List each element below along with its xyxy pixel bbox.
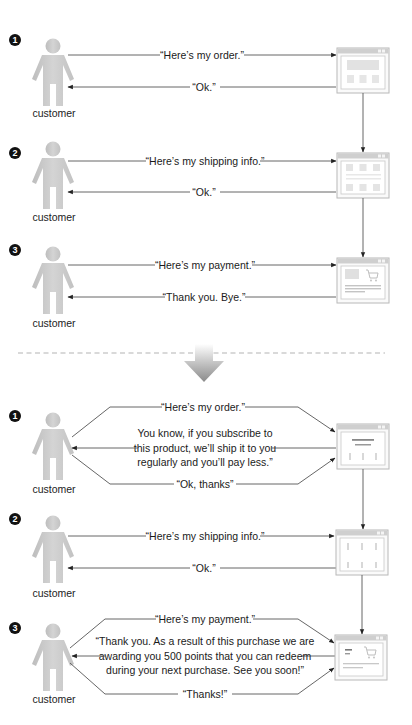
response-line-2: this product, we’ll ship it to you: [134, 442, 277, 454]
customer-figure-icon: [32, 413, 74, 481]
request-label: “Here’s my payment.”: [155, 613, 256, 625]
customer-label: customer: [32, 587, 76, 599]
order-page-window-icon: [337, 48, 389, 93]
after-step-3: 3 customer “Here’s my payment.” “Thank y…: [9, 613, 387, 706]
response-label: “Thank you. Bye.”: [163, 291, 246, 303]
response-line-1: “Thank you. As a result of this purchase…: [96, 635, 315, 647]
step-number: 3: [12, 623, 17, 633]
before-step-3: 3 customer “Here’s my payment.” “Thank y…: [9, 244, 389, 329]
order-page-window-icon: [337, 424, 389, 469]
customer-interaction-diagram: 1 customer “Here’s my order.” “Ok.” 2 cu…: [0, 0, 412, 725]
step-number: 1: [12, 411, 17, 421]
before-step-1: 1 customer “Here’s my order.” “Ok.”: [9, 34, 389, 119]
customer-label: customer: [32, 107, 76, 119]
customer-figure-icon: [32, 39, 74, 107]
customer-figure-icon: [32, 142, 74, 210]
response-line-1: You know, if you subscribe to: [137, 427, 272, 439]
request-label: “Here’s my payment.”: [155, 259, 256, 271]
response-line-2: awarding you 500 points that you can red…: [99, 650, 312, 662]
before-step-2: 2 customer “Here’s my shipping info.” “O…: [9, 142, 389, 224]
step-number: 3: [12, 245, 17, 255]
request-label: “Here’s my order.”: [160, 49, 244, 61]
request-label: “Here’s my shipping info.”: [146, 530, 265, 542]
after-step-2: 2 customer “Here’s my shipping info.” “O…: [9, 513, 388, 599]
response-label: “Ok.”: [192, 81, 216, 93]
customer-figure-icon: [32, 516, 74, 584]
request-label: “Here’s my shipping info.”: [146, 155, 265, 167]
request-label: “Here’s my order.”: [161, 401, 245, 413]
customer-figure-icon: [32, 247, 74, 315]
reply-label: “Thanks!”: [183, 688, 228, 700]
customer-label: customer: [32, 211, 76, 223]
customer-figure-icon: [32, 624, 74, 692]
step-number: 1: [12, 35, 17, 45]
step-number: 2: [12, 148, 17, 158]
customer-label: customer: [32, 317, 76, 329]
response-line-3: during your next purchase. See you soon!…: [106, 664, 304, 676]
response-label: “Ok.”: [192, 186, 216, 198]
shipping-page-window-icon: [336, 530, 388, 575]
payment-page-window-icon: [335, 635, 387, 680]
after-step-1: 1 customer “Here’s my order.” You know, …: [9, 401, 389, 496]
customer-label: customer: [32, 483, 76, 495]
customer-label: customer: [32, 693, 76, 705]
shipping-page-window-icon: [337, 153, 389, 198]
reply-label: “Ok, thanks”: [176, 478, 234, 490]
response-label: “Ok.”: [192, 562, 216, 574]
step-number: 2: [12, 514, 17, 524]
response-line-3: regularly and you’ll pay less.”: [137, 456, 273, 468]
payment-page-window-icon: [337, 258, 389, 303]
down-arrow-icon: [184, 344, 224, 382]
